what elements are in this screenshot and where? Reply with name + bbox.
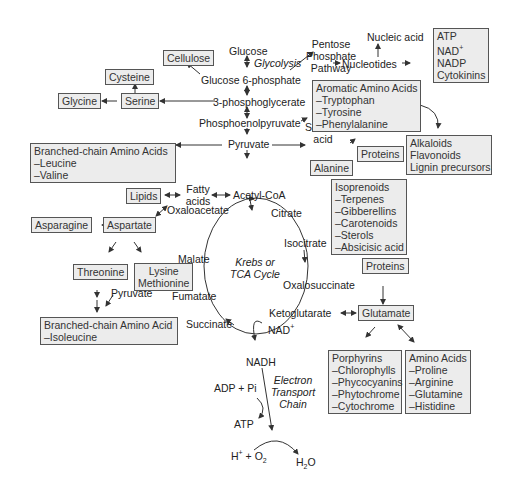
node-pyruvate: Pyruvate — [228, 138, 269, 150]
box-line: Serine — [125, 95, 155, 107]
box-line: –Carotenoids — [335, 217, 403, 229]
box-cysteine: Cysteine — [105, 69, 154, 85]
node-nad-plus: NAD+ — [268, 321, 294, 336]
node-ketoglutarate: Ketoglutarate — [269, 307, 331, 319]
box-line: –Terpenes — [335, 193, 403, 205]
box-line: Alanine — [314, 162, 349, 174]
box-branched-chain-amino-acids: Branched-chain Amino Acids –Leucine –Val… — [30, 143, 176, 183]
box-line: Proteins — [361, 148, 400, 160]
box-isoprenoids: Isoprenoids –Terpenes –Gibberellins –Car… — [331, 179, 407, 255]
box-line: –Phenylalanine — [316, 118, 417, 130]
node-isocitrate: Isocitrate — [284, 237, 327, 249]
box-porphyrins: Porphyrins –Chlorophylls –Phycocyanins –… — [328, 350, 402, 414]
node-fumatate: Fumatate — [172, 290, 216, 302]
krebs-line-2: TCA Cycle — [230, 268, 280, 280]
box-atp-nad-nadp-cytokinins: ATP NAD+ NADP Cytokinins — [433, 28, 489, 83]
box-amino-acids: Amino Acids –Proline –Arginine –Glutamin… — [405, 350, 471, 414]
box-line: –Tryptophan — [316, 94, 417, 106]
node-phosphoenolpyruvate: Phosphoenolpyruvate — [199, 117, 301, 129]
pentose-line-1: Pentose — [312, 38, 351, 50]
box-line: Aspartate — [107, 219, 152, 231]
box-line: –Cytochrome — [332, 400, 398, 412]
node-citrate: Citrate — [271, 207, 302, 219]
box-line: Methionine — [138, 277, 189, 289]
label-krebs-cycle: Krebs or TCA Cycle — [220, 256, 290, 280]
krebs-line-1: Krebs or — [235, 256, 275, 268]
box-line: –Gibberellins — [335, 205, 403, 217]
box-line: Amino Acids — [409, 352, 467, 364]
box-threonine: Threonine — [73, 264, 128, 280]
node-adp-pi: ADP + Pi — [214, 382, 257, 394]
box-line: Asparagine — [35, 219, 88, 231]
node-h-plus-o2: H+ + O2 — [231, 447, 267, 467]
label-glycolysis: Glycolysis — [254, 57, 301, 69]
box-line: Lipids — [130, 190, 157, 202]
shikimic-line-2: acid — [313, 133, 332, 145]
box-alkaloids-flavonoids-lignin: Alkaloids Flavonoids Lignin precursors — [406, 135, 492, 175]
node-acetyl-coa: Acetyl-CoA — [233, 189, 286, 201]
node-glucose-6-phosphate: Glucose 6-phosphate — [201, 74, 301, 86]
box-line: Lignin precursors — [410, 161, 488, 173]
box-serine: Serine — [121, 93, 159, 109]
box-line: NADP — [437, 57, 485, 69]
box-line: Threonine — [77, 266, 124, 278]
box-line: Aromatic Amino Acids — [316, 82, 417, 94]
box-line: –Glutamine — [409, 388, 467, 400]
box-proteins-bottom: Proteins — [362, 258, 409, 274]
box-lysine-methionine: Lysine Methionine — [134, 263, 193, 291]
box-line: Flavonoids — [410, 149, 488, 161]
box-line: –Absicisic acid — [335, 241, 403, 253]
node-nucleic-acid: Nucleic acid — [367, 31, 424, 43]
box-line: –Histidine — [409, 400, 467, 412]
box-line: –Arginine — [409, 376, 467, 388]
box-line: Glutamate — [362, 307, 410, 319]
box-aspartate: Aspartate — [103, 217, 156, 233]
box-asparagine: Asparagine — [31, 217, 92, 233]
box-line: –Proline — [409, 364, 467, 376]
node-atp: ATP — [234, 418, 254, 430]
fatty-acids-line-1: Fatty — [186, 183, 209, 195]
box-line: Isoprenoids — [335, 181, 403, 193]
node-oxalosuccinate: Oxalosuccinate — [283, 279, 355, 291]
box-line: –Isoleucine — [44, 331, 174, 343]
box-line: –Valine — [34, 169, 172, 181]
box-alanine: Alanine — [310, 160, 353, 176]
node-glucose: Glucose — [229, 45, 268, 57]
etc-line-2: Transport — [271, 386, 315, 398]
node-nadh: NADH — [246, 356, 276, 368]
box-line: –Phycocyanins — [332, 376, 398, 388]
box-line: Glycine — [62, 95, 97, 107]
node-oxaloacetate: Oxaloacetate — [167, 204, 229, 216]
box-line: Porphyrins — [332, 352, 398, 364]
box-line: ATP — [437, 30, 485, 42]
box-line: Cytokinins — [437, 69, 485, 81]
node-nucleotides: Nucleotides — [342, 58, 397, 70]
box-line: Lysine — [138, 265, 189, 277]
node-3-phosphoglycerate: 3-phosphoglycerate — [213, 96, 305, 108]
box-glutamate: Glutamate — [358, 305, 414, 321]
box-proteins-top: Proteins — [357, 146, 404, 162]
etc-line-1: Electron — [274, 374, 313, 386]
box-cellulose: Cellulose — [163, 50, 214, 66]
node-succinate: Succinate — [186, 318, 232, 330]
box-line: NAD+ — [437, 42, 485, 57]
box-lipids: Lipids — [126, 188, 161, 204]
box-line: –Leucine — [34, 157, 172, 169]
box-glycine: Glycine — [58, 93, 101, 109]
box-line: Branched-chain Amino Acid — [44, 319, 174, 331]
box-line: Branched-chain Amino Acids — [34, 145, 172, 157]
etc-line-3: Chain — [279, 398, 306, 410]
box-line: Cysteine — [109, 71, 150, 83]
box-line: Cellulose — [167, 52, 210, 64]
box-line: Proteins — [366, 260, 405, 272]
box-branched-chain-isoleucine: Branched-chain Amino Acid –Isoleucine — [40, 317, 178, 345]
box-line: –Sterols — [335, 229, 403, 241]
node-h2o: H2O — [296, 456, 316, 473]
box-aromatic-amino-acids: Aromatic Amino Acids –Tryptophan –Tyrosi… — [312, 80, 421, 132]
box-line: –Phytochrome — [332, 388, 398, 400]
box-line: –Tyrosine — [316, 106, 417, 118]
label-electron-transport-chain: Electron Transport Chain — [268, 374, 318, 410]
box-line: –Chlorophylls — [332, 364, 398, 376]
box-line: Alkaloids — [410, 137, 488, 149]
